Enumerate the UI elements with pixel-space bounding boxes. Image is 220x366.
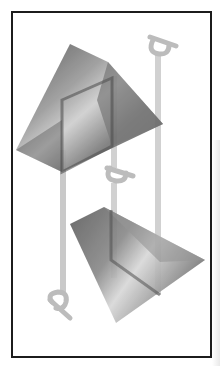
letter-p-middle [107,168,133,181]
lower-prism [70,207,205,323]
illustration [0,0,220,366]
letter-p-top-right [150,37,176,54]
letter-p-bottom-left [50,292,70,318]
upper-prism [16,44,163,172]
scan-edge-shadow [212,140,220,366]
